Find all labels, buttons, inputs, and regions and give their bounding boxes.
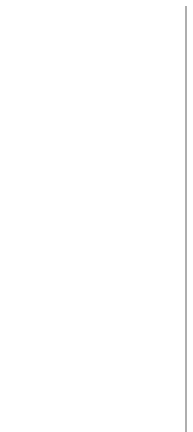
flowchart: [0, 0, 193, 432]
